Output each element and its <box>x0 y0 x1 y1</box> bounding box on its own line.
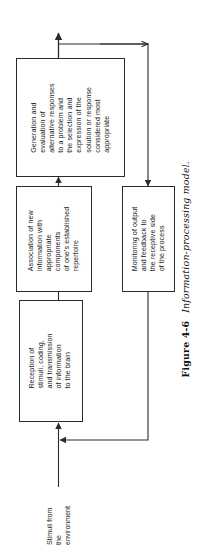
process-box-reception: Reception of stimuli, coding, and transm… <box>19 300 83 422</box>
process-box-generation-label: Generation and evaluation of alternative… <box>30 83 112 153</box>
process-box-generation: Generation and evaluation of alternative… <box>16 58 125 177</box>
figure-caption-number: Figure 4-6 <box>180 320 191 377</box>
figure-information-processing-model: Generation and evaluation of alternative… <box>0 0 210 553</box>
input-source-label: Stimuli from the environment <box>46 506 73 545</box>
process-box-association: Association of new information with appr… <box>16 186 92 292</box>
figure-caption: Figure 4-6 Information-processing model. <box>160 0 210 553</box>
process-box-reception-label: Reception of stimuli, coding, and transm… <box>28 333 73 388</box>
figure-caption-title: Information-processing model. <box>180 160 191 312</box>
process-box-association-label: Association of new information with appr… <box>27 207 82 271</box>
